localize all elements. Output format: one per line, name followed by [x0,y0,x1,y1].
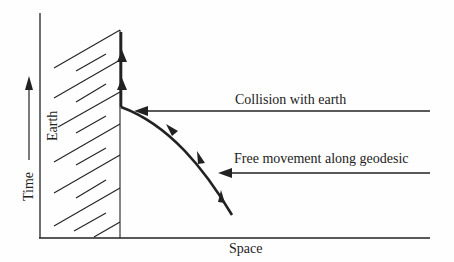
axes [39,13,430,238]
diagram-graphics [0,0,454,262]
arrow-up-icon [117,78,127,90]
earth-region [54,30,120,238]
spacetime-diagram: Collision with earth Free movement along… [0,0,454,262]
arrow-up-icon [25,76,33,90]
pointer-lines [134,106,430,178]
free-movement-label: Free movement along geodesic [234,151,409,167]
time-arrow [25,76,33,160]
y-axis-label: Time [21,172,37,201]
particle-worldline [121,32,232,215]
arrow-icon [197,151,205,164]
earth-label: Earth [45,111,61,141]
arrow-up-icon [117,50,127,62]
collision-label: Collision with earth [235,92,346,108]
x-axis-label: Space [229,241,262,257]
